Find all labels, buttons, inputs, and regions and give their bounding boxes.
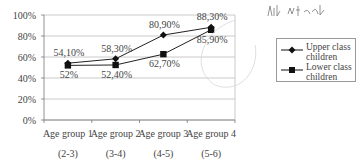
x-tick-sublabel: (4-5) (153, 148, 173, 160)
x-tick-label: Age group 1 (43, 128, 93, 139)
line-chart: 0%20%40%60%80%100% Age group 1(2-3)Age g… (0, 0, 363, 165)
data-label: 52,40% (101, 69, 132, 80)
series-line (68, 27, 211, 63)
legend-label-upper-2: children (306, 52, 358, 62)
square-marker-icon (160, 51, 166, 57)
x-tick-label: Age group 2 (91, 128, 141, 139)
x-tick-label: Age group 3 (138, 128, 188, 139)
legend-label-lower-2: children (306, 72, 358, 82)
x-tick-label: Age group 4 (186, 128, 236, 139)
legend-label-lower: Lower class (306, 62, 358, 72)
square-marker-icon (112, 62, 118, 68)
square-marker-icon (208, 27, 214, 33)
gridlines (44, 15, 235, 120)
y-tick-label: 60% (18, 52, 36, 63)
legend-label-upper: Upper class (306, 42, 358, 52)
x-tick-sublabel: (5-6) (201, 148, 221, 160)
y-tick-label: 40% (18, 73, 36, 84)
diamond-marker-icon (112, 55, 119, 62)
data-label: 54,10% (53, 47, 84, 58)
diamond-marker-icon (160, 32, 167, 39)
data-label: 80,90% (149, 19, 180, 30)
data-label: 85,90% (197, 34, 228, 45)
legend-item-upper: Upper class children (279, 42, 357, 62)
data-labels: 54,10%58,30%80,90%88,30%52%52,40%62,70%8… (53, 11, 227, 80)
data-label: 62,70% (149, 58, 180, 69)
diamond-marker-icon (281, 46, 303, 54)
y-tick-label: 20% (18, 94, 36, 105)
y-tick-label: 80% (18, 31, 36, 42)
x-tick-sublabel: (3-4) (106, 148, 126, 160)
series-line (68, 30, 211, 66)
y-tick-label: 100% (13, 10, 36, 21)
x-tick-sublabel: (2-3) (58, 148, 78, 160)
data-label: 52% (60, 69, 78, 80)
data-series (64, 24, 214, 69)
data-label: 58,30% (101, 43, 132, 54)
data-label: 88,30% (197, 11, 228, 22)
handwritten-scribble (238, 2, 328, 24)
square-marker-icon (65, 62, 71, 68)
y-tick-label: 0% (23, 115, 36, 126)
legend-item-lower: Lower class children (279, 62, 357, 82)
square-marker-icon (281, 66, 303, 74)
x-axis: Age group 1(2-3)Age group 2(3-4)Age grou… (43, 120, 236, 160)
chart-legend: Upper class children Lower class childre… (276, 38, 356, 82)
